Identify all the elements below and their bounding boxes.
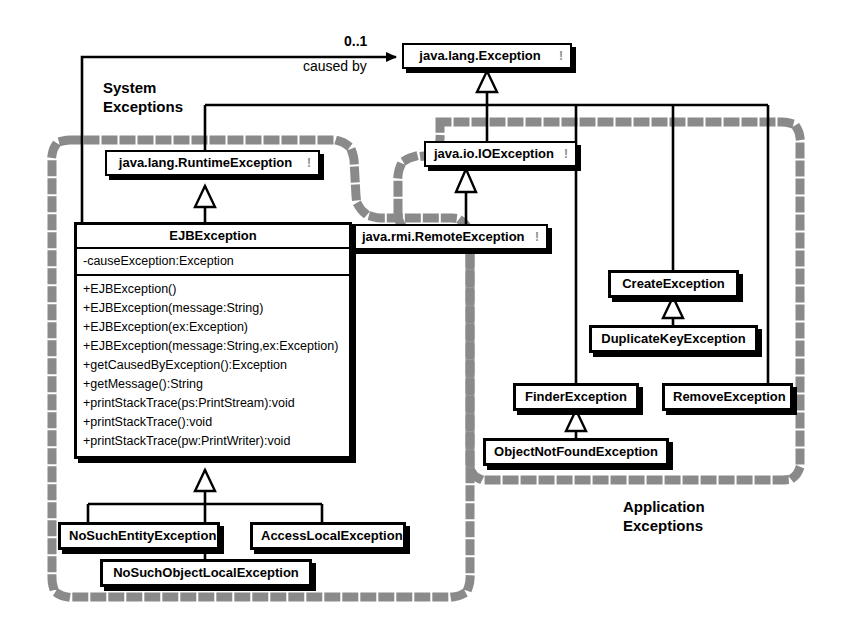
ejbexception-operations-compartment: +EJBException() +EJBException(message:St… bbox=[77, 274, 349, 456]
note-icon: ! bbox=[307, 157, 311, 169]
operation-row: +EJBException() bbox=[77, 280, 349, 299]
operation-row: +printStackTrace(pw:PrintWriter):void bbox=[77, 432, 349, 451]
generalization-objectnotfound-finderexception bbox=[566, 410, 586, 438]
operation-row: +printStackTrace():void bbox=[77, 413, 349, 432]
generalization-ejbexception-runtimeexception bbox=[195, 186, 215, 222]
system-exceptions-label-line1: System bbox=[103, 78, 183, 97]
note-icon: ! bbox=[559, 50, 563, 62]
generalization-remoteexception-ioexception bbox=[456, 169, 476, 224]
class-name-label: java.lang.Exception bbox=[419, 48, 540, 63]
note-icon: ! bbox=[564, 148, 568, 160]
class-title-java-lang-runtimeexception: java.lang.RuntimeException ! bbox=[107, 152, 318, 174]
system-exceptions-label-line2: Exceptions bbox=[103, 97, 183, 116]
class-title-duplicatekeyexception: DuplicateKeyException bbox=[592, 328, 755, 350]
class-box-createexception[interactable]: CreateException bbox=[608, 270, 739, 298]
class-title-nosuchentityexception: NoSuchEntityException bbox=[61, 525, 217, 547]
application-exceptions-label-line2: Exceptions bbox=[623, 516, 705, 535]
class-title-objectnotfoundexception: ObjectNotFoundException bbox=[486, 441, 666, 463]
class-box-java-io-ioexception[interactable]: java.io.IOException ! bbox=[424, 141, 577, 167]
association-multiplicity-label: 0..1 bbox=[344, 33, 367, 49]
class-box-nosuchobjectlocalexception[interactable]: NoSuchObjectLocalException bbox=[100, 559, 312, 587]
uml-diagram-canvas: System Exceptions Application Exceptions… bbox=[0, 0, 845, 636]
class-title-finderexception: FinderException bbox=[516, 386, 636, 408]
class-name-label: java.rmi.RemoteException bbox=[362, 229, 525, 244]
association-name-label: caused by bbox=[303, 58, 367, 74]
application-exceptions-region-outline bbox=[398, 122, 800, 480]
class-box-duplicatekeyexception[interactable]: DuplicateKeyException bbox=[589, 325, 758, 353]
class-title-removeexception: RemoveException bbox=[665, 386, 790, 408]
operation-row: +EJBException(message:String) bbox=[77, 299, 349, 318]
class-box-finderexception[interactable]: FinderException bbox=[513, 383, 639, 411]
class-box-accesslocalexception[interactable]: AccessLocalException bbox=[250, 522, 406, 550]
operation-row: +EJBException(message:String,ex:Exceptio… bbox=[77, 337, 349, 356]
note-icon: ! bbox=[535, 231, 539, 243]
ejbexception-attributes-compartment: -causeException:Exception bbox=[77, 247, 349, 274]
operation-row: +EJBException(ex:Exception) bbox=[77, 318, 349, 337]
class-title-nosuchobjectlocalexception: NoSuchObjectLocalException bbox=[103, 562, 309, 584]
attribute-row: -causeException:Exception bbox=[77, 252, 349, 271]
class-name-label: java.lang.RuntimeException bbox=[119, 155, 292, 170]
class-box-removeexception[interactable]: RemoveException bbox=[662, 383, 793, 411]
class-box-objectnotfoundexception[interactable]: ObjectNotFoundException bbox=[483, 438, 669, 466]
class-title-java-lang-exception: java.lang.Exception ! bbox=[404, 45, 570, 67]
class-title-createexception: CreateException bbox=[611, 273, 736, 295]
class-title-accesslocalexception: AccessLocalException bbox=[253, 525, 403, 547]
class-title-java-io-ioexception: java.io.IOException ! bbox=[426, 143, 575, 165]
class-title-java-rmi-remoteexception: java.rmi.RemoteException ! bbox=[354, 226, 546, 248]
class-box-java-lang-runtimeexception[interactable]: java.lang.RuntimeException ! bbox=[105, 150, 320, 176]
class-title-ejbexception: EJBException bbox=[77, 225, 349, 247]
class-box-ejbexception[interactable]: EJBException -causeException:Exception +… bbox=[74, 222, 352, 459]
class-box-java-lang-exception[interactable]: java.lang.Exception ! bbox=[402, 43, 572, 69]
operation-row: +printStackTrace(ps:PrintStream):void bbox=[77, 394, 349, 413]
class-box-nosuchentityexception[interactable]: NoSuchEntityException bbox=[58, 522, 220, 550]
system-exceptions-region-label: System Exceptions bbox=[103, 78, 183, 116]
operation-row: +getMessage():String bbox=[77, 375, 349, 394]
application-exceptions-label-line1: Application bbox=[623, 497, 705, 516]
class-box-java-rmi-remoteexception[interactable]: java.rmi.RemoteException ! bbox=[352, 224, 548, 250]
operation-row: +getCausedByException():Exception bbox=[77, 356, 349, 375]
application-exceptions-region-label: Application Exceptions bbox=[623, 497, 705, 535]
generalization-duplicatekey-createexception bbox=[663, 297, 683, 325]
class-name-label: java.io.IOException bbox=[434, 146, 554, 161]
